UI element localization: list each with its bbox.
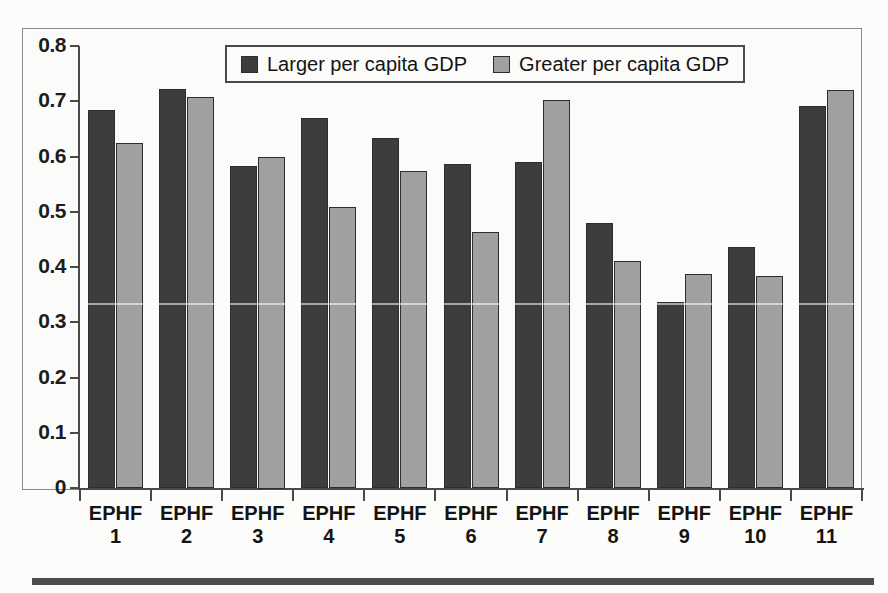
x-label-8: EPHF8 bbox=[578, 502, 649, 548]
x-label-line1: EPHF bbox=[515, 502, 568, 524]
x-label-line2: 10 bbox=[720, 525, 791, 548]
x-label-1: EPHF1 bbox=[80, 502, 151, 548]
x-label-5: EPHF5 bbox=[364, 502, 435, 548]
x-label-line2: 4 bbox=[293, 525, 364, 548]
x-label-line2: 3 bbox=[222, 525, 293, 548]
x-label-line1: EPHF bbox=[302, 502, 355, 524]
x-label-4: EPHF4 bbox=[293, 502, 364, 548]
x-label-line2: 7 bbox=[507, 525, 578, 548]
x-label-line1: EPHF bbox=[89, 502, 142, 524]
x-label-11: EPHF11 bbox=[791, 502, 862, 548]
x-label-10: EPHF10 bbox=[720, 502, 791, 548]
bottom-rule bbox=[32, 578, 874, 585]
x-label-2: EPHF2 bbox=[151, 502, 222, 548]
x-label-line2: 8 bbox=[578, 525, 649, 548]
x-label-line2: 5 bbox=[364, 525, 435, 548]
x-label-line1: EPHF bbox=[373, 502, 426, 524]
x-label-line1: EPHF bbox=[231, 502, 284, 524]
x-label-line1: EPHF bbox=[444, 502, 497, 524]
x-label-3: EPHF3 bbox=[222, 502, 293, 548]
x-label-line1: EPHF bbox=[800, 502, 853, 524]
x-label-line1: EPHF bbox=[658, 502, 711, 524]
x-label-line2: 2 bbox=[151, 525, 222, 548]
x-axis-labels: EPHF1EPHF2EPHF3EPHF4EPHF5EPHF6EPHF7EPHF8… bbox=[0, 0, 888, 593]
x-label-9: EPHF9 bbox=[649, 502, 720, 548]
x-label-line2: 9 bbox=[649, 525, 720, 548]
x-label-7: EPHF7 bbox=[507, 502, 578, 548]
x-label-line1: EPHF bbox=[729, 502, 782, 524]
x-label-6: EPHF6 bbox=[435, 502, 506, 548]
x-label-line1: EPHF bbox=[160, 502, 213, 524]
x-label-line1: EPHF bbox=[586, 502, 639, 524]
x-label-line2: 6 bbox=[435, 525, 506, 548]
x-label-line2: 11 bbox=[791, 525, 862, 548]
x-label-line2: 1 bbox=[80, 525, 151, 548]
